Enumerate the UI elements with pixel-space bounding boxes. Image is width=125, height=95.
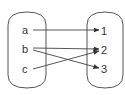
domain-element-a: a [22,24,29,36]
mapping-diagram: a b c 1 2 3 [0,0,125,95]
codomain-element-1: 1 [101,25,107,37]
codomain-element-2: 2 [101,44,107,56]
domain-element-b: b [22,43,28,55]
domain-element-c: c [22,63,28,75]
codomain-element-3: 3 [101,63,107,75]
